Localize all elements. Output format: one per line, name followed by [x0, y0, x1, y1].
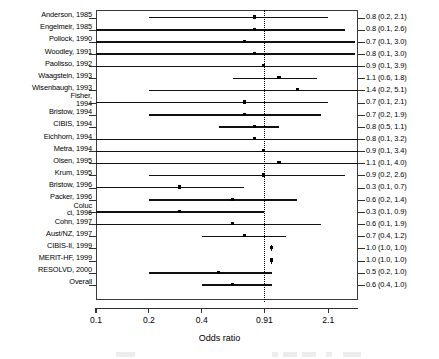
- ci-row: [96, 220, 358, 229]
- ci-line: [96, 224, 321, 225]
- study-label: RESOLVD, 2000: [38, 266, 92, 274]
- x-axis-title: Odds ratio: [0, 333, 439, 343]
- ci-value: 0.6 (0.1, 1.9): [366, 220, 407, 228]
- ci-value: 0.7 (0.4, 1.2): [366, 232, 407, 240]
- ci-line: [149, 114, 321, 115]
- point-estimate-marker: [253, 52, 256, 55]
- study-label: CIBIS-II, 1999: [47, 242, 92, 250]
- x-axis-tick-label: 0.2: [143, 315, 155, 325]
- value-tick: [358, 127, 365, 128]
- ci-value: 0.3 (0.1, 0.7): [366, 183, 407, 191]
- ci-line: [96, 187, 244, 188]
- study-label: Metra, 1994: [54, 145, 92, 153]
- point-estimate-marker: [277, 76, 280, 79]
- study-label: Coluc ci, 1996: [67, 202, 92, 217]
- ci-row: [96, 25, 358, 34]
- point-estimate-marker: [243, 40, 246, 43]
- plot-area: [96, 10, 358, 300]
- value-tick: [358, 54, 365, 55]
- ci-line: [96, 29, 345, 30]
- point-estimate-marker: [253, 28, 256, 31]
- value-tick: [358, 30, 365, 31]
- value-tick: [358, 18, 365, 19]
- ci-line: [219, 126, 279, 127]
- value-tick: [358, 285, 365, 286]
- ci-value: 0.9 (0.2, 2.6): [366, 171, 407, 179]
- ci-row: [96, 244, 358, 253]
- study-label: Woodley, 1991: [45, 48, 92, 56]
- ci-value: 0.8 (0.1, 2.6): [366, 25, 407, 33]
- point-estimate-marker: [231, 283, 234, 286]
- value-tick: [358, 66, 365, 67]
- study-label: Olsen, 1995: [53, 157, 92, 165]
- ci-row: [96, 171, 358, 180]
- row-tick: [89, 127, 96, 128]
- point-estimate-marker: [231, 198, 234, 201]
- ci-line: [233, 78, 317, 79]
- ci-value: 0.7 (0.2, 1.9): [366, 111, 407, 119]
- ci-row: [96, 86, 358, 95]
- row-tick: [89, 151, 96, 152]
- ci-row: [96, 280, 358, 289]
- row-tick: [89, 78, 96, 79]
- value-tick: [358, 236, 365, 237]
- x-axis-tick-label: 2.1: [322, 315, 334, 325]
- ci-line: [149, 17, 328, 18]
- ci-line: [96, 53, 355, 54]
- value-tick: [358, 78, 365, 79]
- value-tick: [358, 90, 365, 91]
- x-axis-tick: [148, 308, 149, 313]
- value-tick: [358, 261, 365, 262]
- study-label: Bristow, 1996: [49, 181, 92, 189]
- ci-line: [202, 284, 272, 287]
- ci-row: [96, 122, 358, 131]
- ci-row: [96, 232, 358, 241]
- point-estimate-marker: [253, 15, 256, 18]
- row-tick: [89, 54, 96, 55]
- row-tick: [89, 224, 96, 225]
- row-tick: [89, 212, 96, 213]
- row-tick: [89, 188, 96, 189]
- ci-row: [96, 183, 358, 192]
- ci-value: 0.9 (0.1, 3.4): [366, 147, 407, 155]
- ci-row: [96, 256, 358, 265]
- row-tick: [89, 30, 96, 31]
- ci-line: [96, 163, 358, 164]
- ci-row: [96, 268, 358, 277]
- ci-value: 0.8 (0.1, 3.0): [366, 50, 407, 58]
- ci-value: 0.9 (0.1, 3.9): [366, 62, 407, 70]
- point-estimate-marker: [243, 113, 246, 116]
- ci-value: 0.5 (0.2, 1.0): [366, 268, 407, 276]
- ci-row: [96, 49, 358, 58]
- x-axis-tick-label: 0.91: [256, 315, 273, 325]
- point-estimate-marker: [277, 161, 280, 164]
- value-tick: [358, 212, 365, 213]
- row-tick: [89, 42, 96, 43]
- ci-row: [96, 195, 358, 204]
- study-label: CIBIS, 1994: [53, 120, 92, 128]
- row-tick: [89, 236, 96, 237]
- ci-value: 0.8 (0.5, 1.1): [366, 123, 407, 131]
- ci-line: [149, 199, 297, 200]
- ci-row: [96, 159, 358, 168]
- ci-value: 1.1 (0.1, 4.0): [366, 159, 407, 167]
- ci-line: [149, 272, 272, 273]
- row-tick: [89, 139, 96, 140]
- ci-line: [96, 66, 358, 67]
- row-tick: [89, 66, 96, 67]
- ci-value: 0.3 (0.1, 0.9): [366, 208, 407, 216]
- ci-row: [96, 13, 358, 22]
- point-estimate-marker: [253, 125, 256, 128]
- point-estimate-marker: [243, 100, 246, 103]
- point-estimate-marker: [253, 137, 256, 140]
- x-axis-tick-label: 0.1: [90, 315, 102, 325]
- study-label: Packer, 1996: [50, 193, 92, 201]
- value-tick: [358, 115, 365, 116]
- study-label: Bristow, 1994: [49, 108, 92, 116]
- page-edge-artifact: [105, 352, 375, 357]
- ci-value: 1.1 (0.6, 1.8): [366, 74, 407, 82]
- ci-value: 0.7 (0.1, 2.1): [366, 98, 407, 106]
- ci-value: 1.0 (1.0, 1.0): [366, 256, 407, 264]
- ci-value: 0.8 (0.1, 3.2): [366, 135, 407, 143]
- ci-value: 1.0 (1.0, 1.0): [366, 244, 407, 252]
